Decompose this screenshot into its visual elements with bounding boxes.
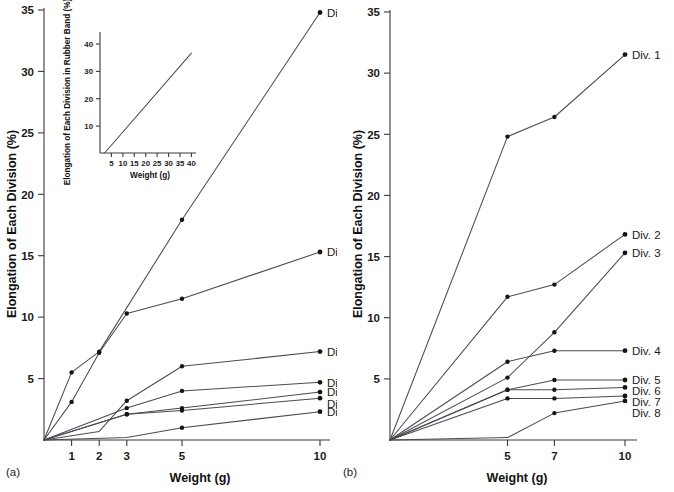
panel-b: 35 30 25 20 15 10 5 5 7 10 Elongation of… bbox=[337, 0, 674, 492]
panel-b-y-axis-title: Elongation of Each Division (%) bbox=[351, 130, 365, 318]
panel-b-label-div-8: Div. 8 bbox=[632, 407, 661, 419]
inset-xtick-40: 40 bbox=[187, 159, 196, 168]
panel-b-series-div-7: Div. 7 bbox=[390, 394, 661, 440]
panel-b-ytick-10: 10 bbox=[367, 312, 380, 324]
inset-ytick-20: 20 bbox=[84, 95, 93, 104]
inset-ytick-30: 30 bbox=[84, 67, 93, 76]
inset-xtick-30: 30 bbox=[164, 159, 173, 168]
inset-xtick-35: 35 bbox=[176, 159, 185, 168]
panel-a-ytick-35: 35 bbox=[21, 4, 34, 16]
inset-ytick-10: 10 bbox=[84, 122, 93, 131]
panel-a-ytick-10: 10 bbox=[21, 311, 34, 323]
inset-xtick-15: 15 bbox=[130, 159, 139, 168]
inset-xtick-25: 25 bbox=[153, 159, 162, 168]
panel-b-series-div-3: Div. 3 bbox=[390, 247, 661, 440]
panel-a-label-div-7: Div. 7 bbox=[327, 406, 337, 418]
panel-b-xtick-5: 5 bbox=[504, 450, 511, 462]
panel-b-ytick-35: 35 bbox=[367, 6, 380, 18]
panel-a-series-div-2: Div. 2 bbox=[44, 246, 337, 440]
panel-b-plot: 35 30 25 20 15 10 5 5 7 10 Elongation of… bbox=[337, 0, 674, 492]
inset-ytick-40: 40 bbox=[84, 40, 93, 49]
panel-b-x-ticks: 5 7 10 bbox=[504, 440, 631, 462]
panel-b-ytick-15: 15 bbox=[367, 251, 380, 263]
panel-b-x-axis-title: Weight (g) bbox=[487, 471, 548, 485]
panel-a: 35 30 25 20 15 10 5 1 2 3 5 10 bbox=[0, 0, 337, 492]
panel-b-xtick-7: 7 bbox=[551, 450, 557, 462]
panel-a-label-div-5: Div. 5 bbox=[327, 386, 337, 398]
panel-a-ytick-20: 20 bbox=[21, 189, 34, 201]
panel-a-x-axis-title: Weight (g) bbox=[170, 471, 231, 485]
panel-b-ytick-30: 30 bbox=[367, 67, 380, 79]
inset-x-axis-title: Weight (g) bbox=[130, 171, 170, 180]
panel-b-label-div-2: Div. 2 bbox=[632, 229, 661, 241]
inset-xtick-10: 10 bbox=[119, 159, 128, 168]
panel-a-label-div-2: Div. 2 bbox=[327, 246, 337, 258]
panel-a-ytick-5: 5 bbox=[28, 373, 35, 385]
panel-b-series-div-1: Div. 1 bbox=[390, 49, 661, 440]
panel-b-ytick-20: 20 bbox=[367, 190, 380, 202]
panel-a-y-axis-title: Elongation of Each Division (%) bbox=[5, 130, 19, 318]
panel-b-series-div-8: Div. 8 bbox=[390, 399, 661, 441]
panel-a-ytick-15: 15 bbox=[21, 250, 34, 262]
panel-a-x-ticks: 1 2 3 5 10 bbox=[68, 440, 326, 462]
panel-b-y-ticks: 35 30 25 20 15 10 5 bbox=[367, 6, 390, 385]
panel-b-label-div-1: Div. 1 bbox=[632, 49, 661, 61]
panel-a-plot: 35 30 25 20 15 10 5 1 2 3 5 10 bbox=[0, 0, 337, 492]
panel-b-label-div-3: Div. 3 bbox=[632, 247, 661, 259]
panel-b-label-div-4: Div. 4 bbox=[632, 345, 661, 357]
panel-a-label-div-3: Div. 3 bbox=[327, 346, 337, 358]
panel-a-ytick-30: 30 bbox=[21, 66, 34, 78]
panel-a-xtick-10: 10 bbox=[314, 450, 327, 462]
figure-container: 35 30 25 20 15 10 5 1 2 3 5 10 bbox=[0, 0, 674, 492]
panel-a-y-ticks: 35 30 25 20 15 10 5 bbox=[21, 4, 44, 385]
panel-a-label-div-1: Div. 1 bbox=[327, 7, 337, 19]
panel-a-series-div-5: Div. 5 bbox=[44, 386, 337, 440]
panel-a-xtick-1: 1 bbox=[68, 450, 75, 462]
panel-a-xtick-5: 5 bbox=[179, 450, 186, 462]
panel-b-label: (b) bbox=[343, 466, 357, 478]
inset-y-axis-title: Elongation of Each Division in Rubber Ba… bbox=[63, 0, 72, 185]
panel-a-label: (a) bbox=[6, 466, 20, 478]
panel-a-xtick-3: 3 bbox=[124, 450, 130, 462]
inset-chart: 40 30 20 10 5 10 15 bbox=[52, 0, 212, 185]
panel-b-ytick-5: 5 bbox=[374, 373, 381, 385]
panel-b-ytick-25: 25 bbox=[367, 129, 380, 141]
panel-b-xtick-10: 10 bbox=[619, 450, 632, 462]
inset-xtick-20: 20 bbox=[141, 159, 150, 168]
inset-xtick-5: 5 bbox=[109, 159, 114, 168]
panel-a-series-div-4: Div. 4 bbox=[44, 377, 337, 441]
panel-b-series-div-5: Div. 5 bbox=[390, 374, 661, 440]
panel-a-ytick-25: 25 bbox=[21, 127, 34, 139]
panel-a-xtick-2: 2 bbox=[96, 450, 102, 462]
